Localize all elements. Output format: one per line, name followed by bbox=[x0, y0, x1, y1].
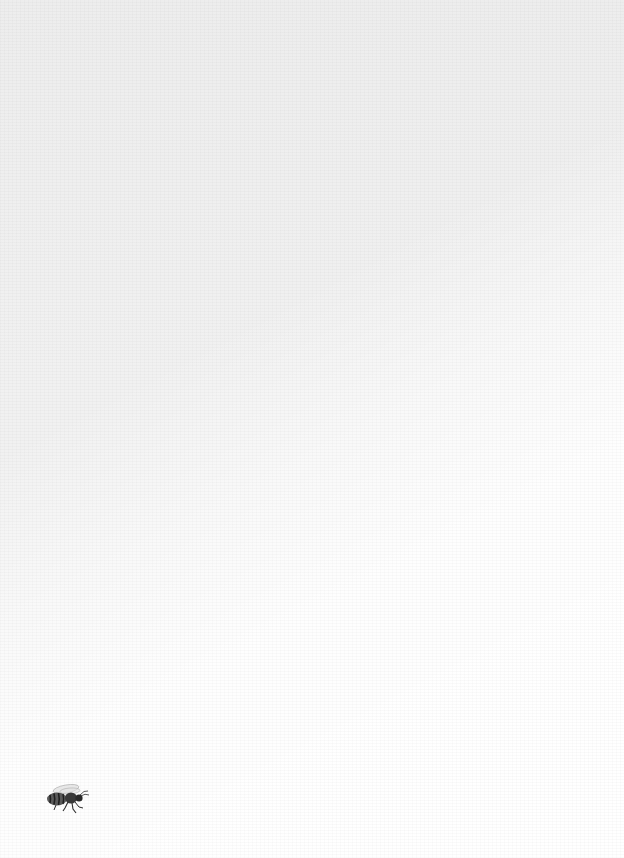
top-shading bbox=[0, 0, 624, 858]
bee-icon bbox=[44, 780, 92, 818]
paper-texture bbox=[0, 0, 624, 858]
paper-background bbox=[0, 0, 624, 858]
light-diagonal-shading bbox=[0, 0, 624, 858]
